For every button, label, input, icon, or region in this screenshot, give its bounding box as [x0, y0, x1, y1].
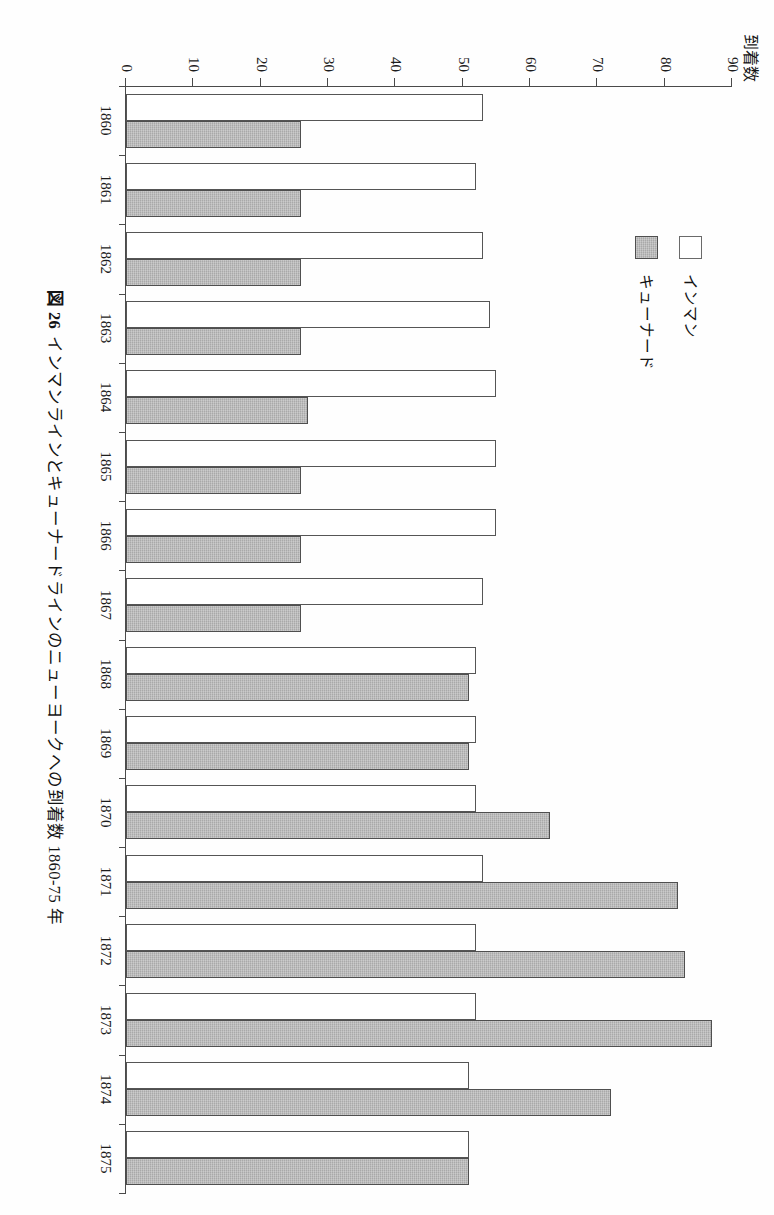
value-axis-tick: 90: [731, 78, 732, 86]
category-axis-tick: [119, 985, 126, 986]
figure-caption-text: インマンラインとキューナードラインのニューヨークへの到着数 1860-75 年: [45, 336, 64, 925]
value-axis-tick: 50: [462, 78, 463, 86]
category-axis-label: 1869: [97, 728, 115, 758]
bar-inman-1873: [126, 993, 476, 1020]
category-axis-tick: [119, 294, 126, 295]
value-axis-tick-label: 10: [184, 57, 203, 72]
bar-inman-1865: [126, 440, 496, 467]
value-axis-tick-label: 80: [656, 57, 675, 72]
rotated-figure-wrapper: 到着数 010203040506070809018601861186218631…: [0, 0, 774, 1215]
category-axis-tick: [119, 224, 126, 225]
bar-inman-1871: [126, 855, 483, 882]
value-axis-title: 到着数: [740, 34, 764, 82]
category-axis-tick: [119, 1055, 126, 1056]
value-axis-tick-label: 60: [521, 57, 540, 72]
category-axis-tick: [119, 432, 126, 433]
value-axis-tick: 10: [192, 78, 193, 86]
value-axis-tick-label: 40: [386, 57, 405, 72]
value-axis-tick: 60: [529, 78, 530, 86]
bar-cunard-1861: [126, 190, 301, 217]
value-axis-tick: 0: [125, 78, 126, 86]
legend-swatch-inman: [679, 236, 702, 259]
category-axis-tick: [119, 155, 126, 156]
value-axis-tick-label: 0: [117, 65, 136, 73]
category-axis-label: 1868: [97, 659, 115, 689]
value-axis-tick-label: 70: [588, 57, 607, 72]
category-axis-label: 1863: [97, 313, 115, 343]
bar-cunard-1874: [126, 1089, 611, 1116]
category-axis-label: 1861: [97, 175, 115, 205]
bar-cunard-1866: [126, 536, 301, 563]
bar-cunard-1870: [126, 812, 550, 839]
category-axis-tick: [119, 363, 126, 364]
category-axis-tick: [119, 847, 126, 848]
figure-caption: 図 26インマンラインとキューナードラインのニューヨークへの到着数 1860-7…: [44, 0, 68, 1215]
category-axis-label: 1871: [97, 867, 115, 897]
bar-inman-1868: [126, 647, 476, 674]
category-axis-tick: [119, 1124, 126, 1125]
bar-inman-1867: [126, 578, 483, 605]
category-axis-label: 1865: [97, 452, 115, 482]
category-axis-tick: [119, 570, 126, 571]
value-axis-tick-label: 50: [454, 57, 473, 72]
category-axis-label: 1864: [97, 382, 115, 412]
bar-inman-1860: [126, 94, 483, 121]
category-axis-label: 1870: [97, 797, 115, 827]
bar-cunard-1869: [126, 743, 469, 770]
bar-inman-1875: [126, 1131, 469, 1158]
value-axis-tick: 70: [596, 78, 597, 86]
bar-cunard-1875: [126, 1158, 469, 1185]
category-axis-tick: [119, 916, 126, 917]
category-axis-label: 1867: [97, 590, 115, 620]
figure-container: 到着数 010203040506070809018601861186218631…: [0, 0, 774, 1215]
bar-inman-1864: [126, 370, 496, 397]
category-axis-label: 1860: [97, 106, 115, 136]
legend-label-cunard: キューナード: [635, 274, 658, 370]
category-axis-label: 1875: [97, 1143, 115, 1173]
category-axis-label: 1872: [97, 936, 115, 966]
bar-inman-1866: [126, 509, 496, 536]
bar-inman-1862: [126, 232, 483, 259]
bar-cunard-1863: [126, 328, 301, 355]
bar-inman-1874: [126, 1062, 469, 1089]
value-axis-tick: 40: [394, 78, 395, 86]
bar-inman-1872: [126, 924, 476, 951]
category-axis-tick: [119, 501, 126, 502]
bar-inman-1861: [126, 163, 476, 190]
category-axis-label: 1874: [97, 1074, 115, 1104]
bar-cunard-1868: [126, 674, 469, 701]
legend-label-inman: インマン: [679, 274, 702, 338]
legend-swatch-cunard: [635, 236, 658, 259]
category-axis-label: 1866: [97, 521, 115, 551]
category-axis-tick: [119, 86, 126, 87]
category-axis-tick: [119, 1193, 126, 1194]
figure-page: 到着数 010203040506070809018601861186218631…: [0, 0, 774, 1215]
value-axis-tick: 30: [327, 78, 328, 86]
legend-item-inman: インマン: [679, 236, 702, 370]
category-axis-label: 1873: [97, 1005, 115, 1035]
category-axis-tick: [119, 709, 126, 710]
bar-inman-1869: [126, 716, 476, 743]
bar-inman-1863: [126, 301, 490, 328]
bar-cunard-1873: [126, 1020, 712, 1047]
legend: インマン キューナード: [614, 236, 702, 370]
category-axis-tick: [119, 640, 126, 641]
legend-item-cunard: キューナード: [635, 236, 658, 370]
bar-cunard-1867: [126, 605, 301, 632]
value-axis-tick: 20: [260, 78, 261, 86]
value-axis-tick-label: 90: [723, 57, 742, 72]
value-axis-tick: 80: [664, 78, 665, 86]
bar-cunard-1860: [126, 121, 301, 148]
bar-cunard-1864: [126, 397, 308, 424]
bar-cunard-1862: [126, 259, 301, 286]
bar-cunard-1871: [126, 882, 678, 909]
bar-cunard-1865: [126, 467, 301, 494]
bar-cunard-1872: [126, 951, 685, 978]
category-axis-label: 1862: [97, 244, 115, 274]
value-axis-tick-label: 20: [252, 57, 271, 72]
bar-inman-1870: [126, 785, 476, 812]
figure-number: 図 26: [45, 290, 64, 329]
value-axis-tick-label: 30: [319, 57, 338, 72]
category-axis-tick: [119, 778, 126, 779]
